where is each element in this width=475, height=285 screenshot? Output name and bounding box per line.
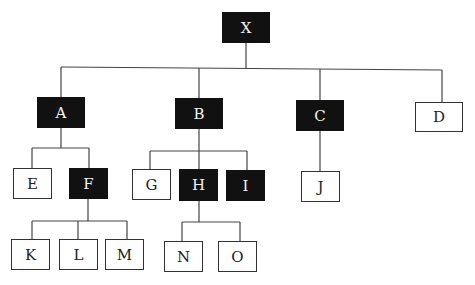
node-label: C xyxy=(314,107,325,125)
node-label: K xyxy=(25,246,36,264)
node-a: A xyxy=(37,97,85,128)
node-i: I xyxy=(226,170,265,201)
node-n: N xyxy=(164,241,203,272)
node-g: G xyxy=(132,169,171,200)
node-label: M xyxy=(117,246,132,264)
node-label: N xyxy=(177,248,190,266)
node-f: F xyxy=(69,168,108,199)
node-label: G xyxy=(146,176,158,194)
node-d: D xyxy=(415,102,463,132)
connector-line xyxy=(61,67,442,70)
node-c: C xyxy=(296,100,344,131)
node-label: I xyxy=(243,177,249,195)
node-label: F xyxy=(83,175,93,193)
node-label: B xyxy=(193,105,204,123)
node-j: J xyxy=(301,171,340,202)
node-m: M xyxy=(105,239,144,270)
tree-diagram: XABCDEFGHIJKLMNO xyxy=(0,0,475,285)
node-label: O xyxy=(231,248,243,266)
node-h: H xyxy=(179,169,218,201)
node-label: H xyxy=(192,176,205,194)
node-k: K xyxy=(11,239,50,270)
node-label: J xyxy=(317,178,323,196)
node-e: E xyxy=(13,168,52,199)
node-o: O xyxy=(218,241,257,272)
node-x: X xyxy=(222,12,270,43)
node-l: L xyxy=(59,239,98,270)
node-label: D xyxy=(433,108,445,126)
node-b: B xyxy=(175,98,223,129)
node-label: A xyxy=(56,104,67,122)
node-label: L xyxy=(74,246,84,264)
node-label: X xyxy=(241,19,252,37)
node-label: E xyxy=(27,175,38,193)
